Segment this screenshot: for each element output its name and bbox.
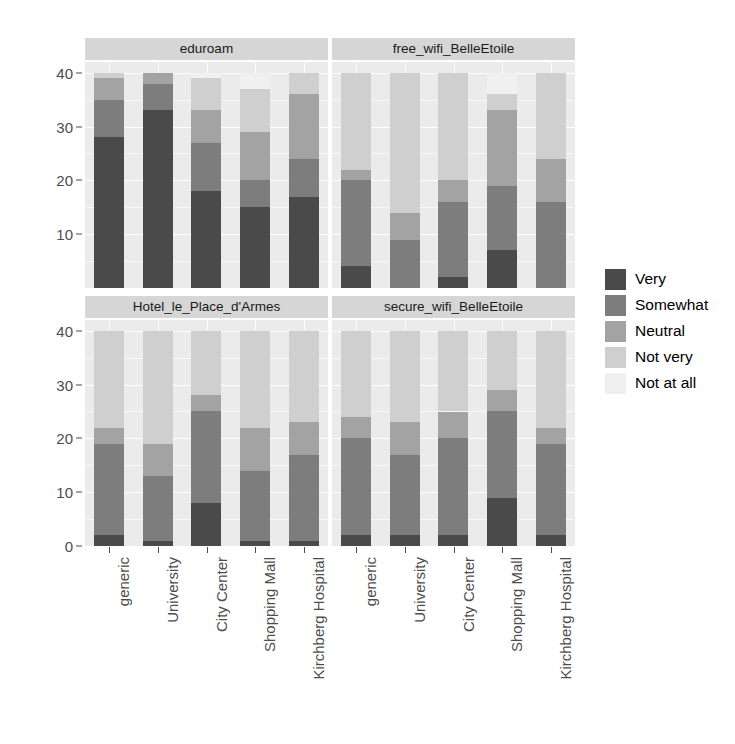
- x-tick-mark: [405, 547, 406, 553]
- y-tick-mark: [76, 180, 82, 181]
- y-tick-mark: [76, 492, 82, 493]
- bar-segment: [94, 444, 124, 535]
- bar-segment: [191, 191, 221, 288]
- bar-segment: [240, 207, 270, 288]
- bar-segment: [438, 438, 468, 535]
- bar-segment: [240, 471, 270, 541]
- stacked-bar: [191, 73, 221, 288]
- bar-segment: [536, 159, 566, 202]
- stacked-bar: [240, 331, 270, 546]
- bar-segment: [390, 331, 420, 422]
- stacked-bar: [143, 331, 173, 546]
- y-tick-mark: [76, 126, 82, 127]
- bar-segment: [487, 250, 517, 288]
- x-tick-label: City Center: [460, 557, 477, 632]
- y-tick-mark: [76, 234, 82, 235]
- bar-segment: [94, 428, 124, 444]
- bar-segment: [191, 143, 221, 191]
- panel-grid: eduroam10203040free_wifi_BelleEtoileHote…: [85, 38, 595, 550]
- x-tick-label: University: [411, 557, 428, 623]
- bar-segment: [341, 170, 371, 181]
- bar-segment: [438, 331, 468, 412]
- stacked-bar: [341, 331, 371, 546]
- bar-segment: [94, 331, 124, 428]
- x-tick-label: City Center: [213, 557, 230, 632]
- bar-segment: [289, 331, 319, 422]
- legend-item: Somewhat: [605, 292, 733, 318]
- panel-plot-area: [332, 62, 575, 288]
- legend-item: Not very: [605, 344, 733, 370]
- y-tick-label: 40: [56, 322, 73, 339]
- bar-segment: [143, 476, 173, 541]
- chart-legend: VerySomewhatNeutralNot veryNot at all: [605, 266, 733, 396]
- bar-segment: [438, 412, 468, 439]
- facet-strip-label: eduroam: [85, 38, 328, 60]
- legend-label: Very: [635, 270, 666, 288]
- legend-item: Neutral: [605, 318, 733, 344]
- bar-segment: [438, 277, 468, 288]
- stacked-bar: [390, 331, 420, 546]
- bar-segment: [191, 411, 221, 502]
- bar-segment: [487, 94, 517, 110]
- bar-segment: [143, 444, 173, 476]
- facet-strip-label: secure_wifi_BelleEtoile: [332, 296, 575, 318]
- bar-segment: [289, 159, 319, 197]
- bar-segment: [289, 73, 319, 95]
- x-tick-label: Shopping Mall: [261, 557, 278, 652]
- x-tick-mark: [551, 547, 552, 553]
- bar-segment: [240, 73, 270, 89]
- bar-segment: [438, 535, 468, 546]
- bar-segment: [536, 428, 566, 444]
- stacked-bar: [94, 331, 124, 546]
- bar-segment: [487, 331, 517, 390]
- bar-segment: [143, 541, 173, 546]
- bar-segment: [487, 390, 517, 412]
- bar-segment: [390, 213, 420, 240]
- bar-segment: [240, 89, 270, 132]
- y-tick-mark: [76, 438, 82, 439]
- facet-strip-label: Hotel_le_Place_d'Armes: [85, 296, 328, 318]
- bar-segment: [94, 100, 124, 138]
- stacked-bar: [94, 73, 124, 288]
- y-tick-label: 20: [56, 172, 73, 189]
- bar-segment: [390, 73, 420, 213]
- bar-segment: [94, 535, 124, 546]
- x-tick-label: generic: [115, 557, 132, 606]
- y-tick-mark: [76, 384, 82, 385]
- x-tick-mark: [356, 547, 357, 553]
- panel-plot-area: [85, 320, 328, 546]
- bar-segment: [240, 428, 270, 471]
- bar-segment: [438, 202, 468, 277]
- bar-segment: [289, 422, 319, 454]
- x-tick-label: Kirchberg Hospital: [557, 557, 574, 680]
- x-tick-label: Kirchberg Hospital: [310, 557, 327, 680]
- legend-swatch: [605, 295, 626, 316]
- bar-segment: [240, 180, 270, 207]
- bar-segment: [191, 73, 221, 78]
- bar-segment: [487, 186, 517, 251]
- facet-panel: eduroam10203040: [85, 38, 328, 288]
- bar-segment: [240, 331, 270, 428]
- legend-label: Not very: [635, 348, 693, 366]
- y-tick-mark: [76, 330, 82, 331]
- bar-segment: [143, 73, 173, 84]
- y-tick-label: 0: [65, 538, 73, 555]
- stacked-bar: [536, 73, 566, 288]
- x-tick-label: generic: [362, 557, 379, 606]
- bar-segment: [390, 240, 420, 288]
- stacked-bar: [240, 73, 270, 288]
- stacked-bar: [536, 331, 566, 546]
- bar-segment: [191, 503, 221, 546]
- bar-segment: [438, 73, 468, 181]
- bar-segment: [341, 73, 371, 170]
- bar-segment: [536, 535, 566, 546]
- bar-segment: [536, 331, 566, 428]
- bar-segment: [143, 331, 173, 444]
- stacked-bar: [487, 73, 517, 288]
- y-tick-label: 40: [56, 64, 73, 81]
- facet-panel: free_wifi_BelleEtoile: [332, 38, 575, 288]
- legend-swatch: [605, 347, 626, 368]
- x-tick-label: Shopping Mall: [508, 557, 525, 652]
- stacked-bar: [487, 331, 517, 546]
- legend-label: Not at all: [635, 374, 696, 392]
